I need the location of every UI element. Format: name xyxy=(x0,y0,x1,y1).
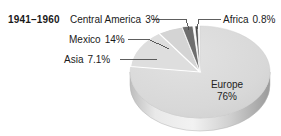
slice-value-mexico: 14% xyxy=(105,34,125,45)
slice-label-europe-name: Europe xyxy=(198,79,256,91)
slice-label-africa: Africa0.8% xyxy=(223,14,275,25)
slice-label-asia-name: Asia xyxy=(64,54,83,65)
slice-value-central-america: 3% xyxy=(145,14,159,25)
slice-label-africa-name: Africa xyxy=(223,14,249,25)
slice-label-asia: Asia7.1% xyxy=(64,54,110,65)
slice-label-mexico: Mexico14% xyxy=(69,34,125,45)
slice-value-asia: 7.1% xyxy=(87,54,110,65)
slice-label-europe: Europe 76% xyxy=(198,79,256,103)
slice-label-mexico-name: Mexico xyxy=(69,34,101,45)
pie-chart-figure: 1941–1960 xyxy=(0,0,281,136)
slice-label-central-america: Central America3% xyxy=(70,14,160,25)
slice-label-central-america-name: Central America xyxy=(70,14,141,25)
slice-value-europe: 76% xyxy=(198,91,256,103)
slice-value-africa: 0.8% xyxy=(253,14,276,25)
